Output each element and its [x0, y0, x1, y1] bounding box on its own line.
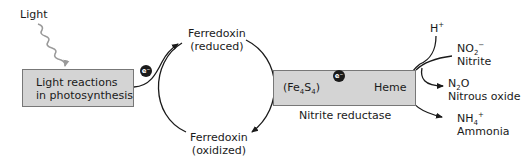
ammonia-name: Ammonia — [457, 125, 509, 138]
nitrous-oxide-name: Nitrous oxide — [448, 90, 521, 103]
ammonia-label: NH4+ Ammonia — [457, 112, 509, 138]
fe4s4-suffix: ) — [316, 81, 320, 94]
nitrite-name: Nitrite — [457, 55, 491, 68]
light-reactions-line2: in photosynthesis — [36, 89, 133, 102]
proton-sup: + — [438, 21, 444, 29]
nitrite-formula: NO2− — [457, 42, 491, 55]
ferredoxin-oxidized-line1: Ferredoxin — [190, 131, 248, 144]
ferredoxin-reduced-line1: Ferredoxin — [188, 27, 246, 40]
ammonia-formula: NH4+ — [457, 112, 509, 125]
nitrite-formula-base: NO — [457, 42, 474, 55]
n2o-pre: N — [448, 77, 456, 90]
electron-icon: e⁻ — [140, 65, 152, 77]
nitrite-label: NO2− Nitrite — [457, 42, 491, 68]
nitrous-oxide-formula: N2O — [448, 77, 521, 90]
light-label: Light — [20, 8, 47, 21]
heme-label: Heme — [374, 81, 407, 94]
fe4s4-label: (Fe4S4) — [283, 81, 320, 94]
light-reactions-line1: Light reactions — [36, 76, 133, 89]
ferredoxin-oxidized-label: Ferredoxin (oxidized) — [190, 131, 248, 157]
nh4-sup: + — [478, 111, 484, 119]
light-wave-icon — [38, 24, 65, 66]
ferredoxin-reduced-line2: (reduced) — [188, 40, 246, 53]
nitrite-formula-sup: − — [478, 41, 484, 49]
nitrous-oxide-label: N2O Nitrous oxide — [448, 77, 521, 103]
nh4-base: NH — [457, 112, 474, 125]
fe4s4-prefix: (Fe — [283, 81, 300, 94]
proton-label: H+ — [430, 22, 444, 35]
nitrite-reductase-caption: Nitrite reductase — [299, 109, 391, 122]
light-reactions-box: Light reactions in photosynthesis — [22, 69, 134, 107]
electron-icon-enzyme: e⁻ — [333, 70, 345, 82]
ferredoxin-oxidized-line2: (oxidized) — [190, 144, 248, 157]
n2o-post: O — [461, 77, 470, 90]
ferredoxin-reduced-label: Ferredoxin (reduced) — [188, 27, 246, 53]
